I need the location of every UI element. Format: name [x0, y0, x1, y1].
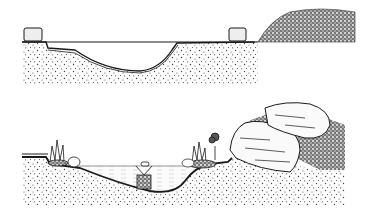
- pebble: [68, 157, 80, 167]
- bottom-panel: [22, 103, 345, 205]
- edge-stone-right: [229, 28, 246, 41]
- edge-stone-left: [24, 28, 42, 41]
- top-panel: [22, 9, 355, 84]
- soil-pile: [258, 9, 355, 42]
- plant-left: [48, 140, 68, 166]
- pond-construction-diagram: [0, 0, 373, 215]
